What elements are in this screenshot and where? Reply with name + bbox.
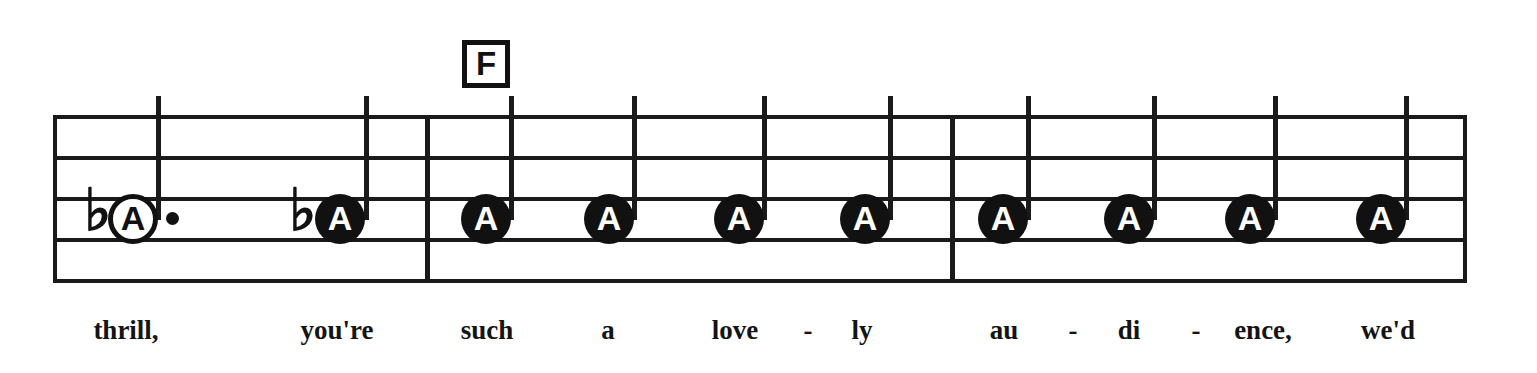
notehead-2[interactable]: A — [315, 194, 365, 244]
lyric-syllable: ly — [851, 315, 872, 346]
notehead-letter: A — [597, 201, 622, 235]
staff-line-1 — [53, 115, 1467, 119]
note-stem-8 — [1152, 96, 1157, 220]
notehead-letter: A — [991, 201, 1016, 235]
notehead-letter: A — [328, 201, 353, 235]
notehead-letter: A — [1238, 201, 1263, 235]
notehead-9[interactable]: A — [1225, 194, 1275, 244]
flat-accidental-icon-2: ♭ — [289, 182, 316, 240]
notehead-4[interactable]: A — [584, 194, 634, 244]
notehead-letter: A — [853, 201, 878, 235]
lyric-word: thrill, — [93, 315, 158, 346]
lyric-hyphen: - — [1192, 315, 1201, 346]
chord-box-icon: F — [462, 40, 510, 88]
note-stem-10 — [1404, 96, 1409, 220]
lyric-hyphen: - — [804, 315, 813, 346]
barline-measure-1-2 — [425, 115, 430, 283]
staff-start-line — [53, 115, 57, 283]
notehead-letter: A — [1369, 201, 1394, 235]
lyric-syllable: di — [1118, 315, 1141, 346]
chord-symbol-label: F — [476, 45, 496, 83]
note-stem-9 — [1273, 96, 1278, 220]
lyric-syllable: love — [712, 315, 759, 346]
lyric-word: a — [601, 315, 615, 346]
lyrics-line: thrill, you're such a love - ly au - di … — [0, 315, 1537, 360]
notehead-7[interactable]: A — [978, 194, 1028, 244]
notehead-6[interactable]: A — [840, 194, 890, 244]
lyric-word: you're — [301, 315, 374, 346]
note-stem-4 — [632, 96, 637, 220]
barline-measure-2-3 — [950, 115, 955, 283]
lyric-syllable: ence, — [1234, 315, 1292, 346]
notehead-letter: A — [474, 201, 499, 235]
notehead-3[interactable]: A — [461, 194, 511, 244]
note-stem-6 — [888, 96, 893, 220]
notehead-letter: A — [121, 201, 146, 235]
lyric-word: we'd — [1361, 315, 1415, 346]
notehead-5[interactable]: A — [714, 194, 764, 244]
lyric-word: such — [461, 315, 514, 346]
staff-end-line — [1463, 115, 1467, 283]
notehead-letter: A — [1117, 201, 1142, 235]
lyric-syllable: au — [990, 315, 1019, 346]
staff-line-2 — [53, 156, 1467, 160]
notehead-1[interactable]: A — [108, 194, 158, 244]
note-stem-3 — [509, 96, 514, 220]
staff-line-5 — [53, 279, 1467, 283]
note-stem-7 — [1026, 96, 1031, 220]
augmentation-dot-1 — [166, 212, 179, 225]
notehead-8[interactable]: A — [1104, 194, 1154, 244]
flat-accidental-icon-1: ♭ — [84, 182, 111, 240]
note-stem-1 — [156, 96, 161, 220]
notehead-letter: A — [727, 201, 752, 235]
sheet-music-page: F ♭ A ♭ A A A A A A A A A thr — [0, 0, 1537, 373]
lyric-hyphen: - — [1069, 315, 1078, 346]
note-stem-2 — [364, 96, 369, 220]
note-stem-5 — [762, 96, 767, 220]
notehead-10[interactable]: A — [1356, 194, 1406, 244]
